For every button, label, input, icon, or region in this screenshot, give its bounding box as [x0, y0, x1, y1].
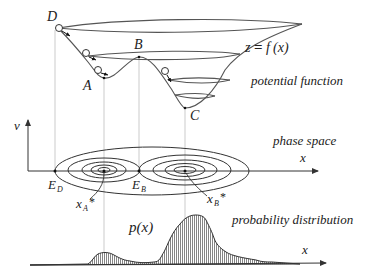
svg-text:B: B — [214, 199, 219, 208]
guide-lines — [55, 30, 185, 262]
label-EB: E B — [131, 177, 146, 194]
svg-text:z: z — [244, 40, 251, 55]
svg-text:=: = — [254, 39, 263, 55]
svg-text:f: f — [266, 40, 272, 55]
svg-text:E: E — [131, 177, 140, 192]
diagram-canvas: D B A C z = f (x) potential function pha… — [0, 0, 369, 278]
label-D: D — [46, 9, 57, 24]
svg-text:B: B — [141, 185, 146, 194]
label-A: A — [82, 78, 92, 93]
svg-text:*: * — [89, 195, 95, 209]
svg-text:(x): (x) — [273, 40, 289, 56]
axis-x-phase-label: x — [299, 150, 306, 165]
caption-distribution: probability distribution — [231, 212, 353, 227]
label-px: p(x) — [128, 219, 153, 236]
label-B: B — [134, 37, 143, 52]
axis-x-dist-label: x — [301, 242, 308, 257]
svg-text:D: D — [56, 185, 63, 194]
caption-potential: potential function — [250, 73, 343, 88]
ball-D — [56, 25, 63, 32]
ball-A — [95, 67, 102, 74]
ball-arrows — [62, 31, 171, 82]
ball-C — [162, 68, 169, 75]
caption-phase-space: phase space — [272, 133, 336, 148]
axis-v-label: v — [14, 118, 20, 133]
ball-upper — [83, 50, 90, 57]
minima-dots — [103, 56, 187, 110]
svg-text:x: x — [206, 191, 213, 206]
point-ED — [54, 170, 57, 173]
svg-text:E: E — [47, 177, 56, 192]
label-C: C — [190, 108, 200, 123]
point-xA — [103, 170, 106, 173]
point-xB — [184, 170, 187, 173]
svg-text:*: * — [220, 190, 226, 204]
potential-surface — [58, 19, 302, 108]
label-xB-star: x B * — [206, 190, 226, 208]
svg-text:A: A — [82, 204, 88, 213]
point-EB — [138, 170, 141, 173]
label-xA-star: x A * — [75, 195, 95, 213]
svg-text:x: x — [75, 196, 82, 211]
